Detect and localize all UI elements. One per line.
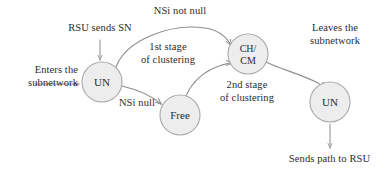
- node-un-right: UN: [310, 82, 350, 122]
- node-label-ch-cm-line2: CM: [240, 55, 256, 66]
- label-second-stage-line2: of clustering: [200, 92, 294, 105]
- label-sends-path-to-rsu: Sends path to RSU: [271, 153, 388, 166]
- label-enters-subnetwork: Enters the subnetwork: [0, 64, 78, 89]
- state-transition-diagram: UN Free CH/ CM UN Enters the subnetwork …: [0, 0, 388, 175]
- label-first-stage-line2: of clustering: [121, 54, 215, 67]
- node-ch-cm: CH/ CM: [228, 34, 268, 74]
- node-label-free: Free: [170, 109, 190, 121]
- node-label-ch-cm-line1: CH/: [240, 43, 257, 54]
- node-un-left: UN: [82, 62, 122, 102]
- label-rsu-sends-sn: RSU sends SN: [48, 22, 152, 35]
- label-second-stage-of-clustering: 2nd stage of clustering: [200, 79, 294, 104]
- node-label-un-right: UN: [322, 96, 338, 108]
- label-first-stage-line1: 1st stage: [121, 41, 215, 54]
- node-label-un-left: UN: [94, 76, 110, 88]
- label-enters-subnetwork-line2: subnetwork: [0, 77, 78, 90]
- label-enters-subnetwork-line1: Enters the: [0, 64, 78, 77]
- label-nsi-null: NSi null: [106, 97, 168, 110]
- label-first-stage-of-clustering: 1st stage of clustering: [121, 41, 215, 66]
- label-leaves-subnetwork-line2: subnetwork: [292, 35, 378, 48]
- label-nsi-not-null: NSi not null: [133, 5, 227, 18]
- label-leaves-subnetwork-line1: Leaves the: [292, 22, 378, 35]
- node-circle-ch-cm: [228, 34, 268, 74]
- label-leaves-subnetwork: Leaves the subnetwork: [292, 22, 378, 47]
- label-second-stage-line1: 2nd stage: [200, 79, 294, 92]
